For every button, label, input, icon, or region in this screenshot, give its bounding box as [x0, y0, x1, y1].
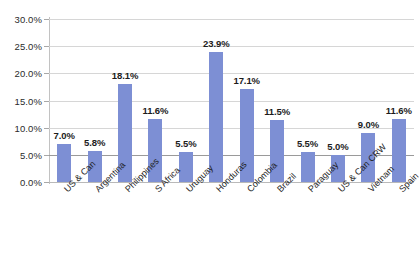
bar-slot[interactable]: 5.8% [79, 19, 109, 182]
y-axis-tick-label: 5.0% [20, 149, 42, 160]
y-axis-tick [44, 128, 49, 129]
bar-slot[interactable]: 23.9% [201, 19, 231, 182]
bar-value-label: 5.8% [84, 137, 105, 148]
y-axis-tick-label: 0.0% [20, 177, 42, 188]
bar[interactable] [57, 144, 71, 182]
x-label-slot: Philippines [110, 184, 140, 253]
bar-slot[interactable]: 5.5% [292, 19, 322, 182]
bar-value-label: 18.1% [112, 70, 138, 81]
bar-slot[interactable]: 18.1% [110, 19, 140, 182]
x-label-slot: S Africa [140, 184, 170, 253]
x-label-slot: Spain [384, 184, 414, 253]
bar-value-label: 11.6% [386, 105, 412, 116]
x-label-slot: Argentina [79, 184, 109, 253]
bar-value-label: 5.5% [175, 138, 196, 149]
bar-slot[interactable]: 5.0% [323, 19, 353, 182]
y-axis-tick-label: 30.0% [15, 14, 42, 25]
y-axis-tick [44, 46, 49, 47]
x-label-slot: Colombia [232, 184, 262, 253]
x-label-slot: Paraguay [292, 184, 322, 253]
bar[interactable] [301, 152, 315, 182]
bar[interactable] [179, 152, 193, 182]
bar-value-label: 11.6% [142, 105, 168, 116]
x-label-slot: Honduras [201, 184, 231, 253]
bar-value-label: 17.1% [233, 75, 259, 86]
y-axis-labels: 0.0%5.0%10.0%15.0%20.0%25.0%30.0% [0, 0, 42, 253]
bar-value-label: 11.5% [264, 106, 290, 117]
bar-value-label: 7.0% [54, 130, 75, 141]
x-label-slot: US & Can CRW [323, 184, 353, 253]
y-axis-tick [44, 101, 49, 102]
bar-value-label: 9.0% [358, 119, 379, 130]
bar-value-label: 5.5% [297, 138, 318, 149]
plot-area: 7.0%5.8%18.1%11.6%5.5%23.9%17.1%11.5%5.5… [49, 19, 414, 182]
bar-chart: 0.0%5.0%10.0%15.0%20.0%25.0%30.0% 7.0%5.… [0, 0, 420, 253]
y-axis-tick [44, 19, 49, 20]
x-label-slot: Brazil [262, 184, 292, 253]
bar-slot[interactable]: 5.5% [171, 19, 201, 182]
x-axis-labels: US & CanArgentinaPhilippinesS AfricaUrug… [49, 184, 414, 253]
bar-slot[interactable]: 11.5% [262, 19, 292, 182]
y-axis-tick [44, 182, 49, 183]
y-axis-tick-label: 10.0% [15, 122, 42, 133]
y-axis-tick-label: 20.0% [15, 68, 42, 79]
bar-value-label: 23.9% [203, 38, 229, 49]
y-axis-tick [44, 155, 49, 156]
bar-slot[interactable]: 7.0% [49, 19, 79, 182]
x-label-slot: Vietnam [353, 184, 383, 253]
bar-slot[interactable]: 17.1% [232, 19, 262, 182]
x-label-slot: US & Can [49, 184, 79, 253]
x-label-slot: Uruguay [171, 184, 201, 253]
y-axis-tick-label: 25.0% [15, 41, 42, 52]
y-axis-tick [44, 73, 49, 74]
y-axis-tick-label: 15.0% [15, 95, 42, 106]
bar-slot[interactable]: 11.6% [384, 19, 414, 182]
bar-value-label: 5.0% [327, 141, 348, 152]
bar[interactable] [209, 52, 223, 182]
